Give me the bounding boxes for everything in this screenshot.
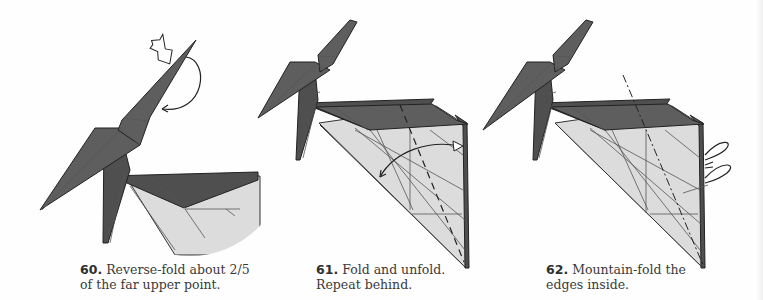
step-62-caption: 62. Mountain-fold the edges inside. [546, 262, 686, 292]
diagram-page: 60. Reverse-fold about 2/5 of the far up… [0, 0, 763, 300]
reverse-fold-push-arrow-icon [148, 33, 175, 64]
step-61-number: 61. [316, 262, 338, 277]
tuck-inside-arrow-icon [705, 142, 731, 183]
step-60-figure [40, 33, 260, 255]
step-62-number: 62. [546, 262, 568, 277]
step-61-figure [258, 20, 469, 268]
step-61-text-line1: Fold and unfold. [342, 262, 445, 277]
step-62-text-line2: edges inside. [546, 277, 629, 292]
origami-diagrams [0, 0, 763, 300]
step-61-text-line2: Repeat behind. [316, 277, 412, 292]
page-edge-shadow [755, 0, 763, 300]
step-60-caption: 60. Reverse-fold about 2/5 of the far up… [80, 262, 250, 292]
step-60-number: 60. [80, 262, 102, 277]
step-62-figure [483, 20, 731, 268]
step-61-caption: 61. Fold and unfold. Repeat behind. [316, 262, 445, 292]
step-60-text-line2: of the far upper point. [80, 277, 221, 292]
step-60-text-line1: Reverse-fold about 2/5 [106, 262, 250, 277]
step-62-text-line1: Mountain-fold the [572, 262, 686, 277]
